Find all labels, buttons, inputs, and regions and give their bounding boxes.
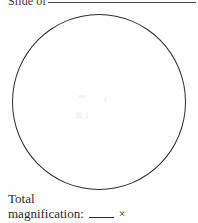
magnification-blank-field[interactable] xyxy=(89,207,114,218)
total-label: Total xyxy=(8,191,196,206)
worksheet-page: Slide of Total magnification: × xyxy=(0,0,198,223)
magnification-label: magnification: xyxy=(8,206,84,221)
caption-block: Total magnification: × xyxy=(8,191,196,222)
times-symbol: × xyxy=(119,207,126,222)
slide-heading-row: Slide of xyxy=(0,0,198,8)
slide-label: Slide of xyxy=(8,0,46,8)
magnification-row: magnification: × xyxy=(8,206,196,222)
slide-name-blank-rule[interactable] xyxy=(48,2,196,3)
field-of-view-circle[interactable] xyxy=(12,14,186,190)
